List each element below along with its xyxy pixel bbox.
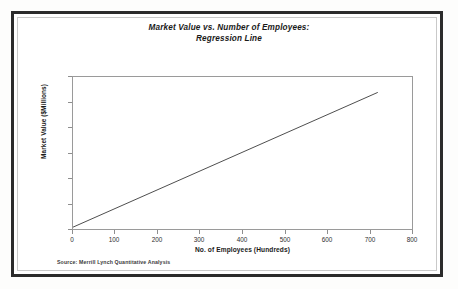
x-tick-mark	[114, 230, 115, 234]
chart-title: Market Value vs. Number of Employees: Re…	[0, 22, 458, 44]
x-tick-label: 200	[137, 236, 177, 244]
x-tick-mark	[327, 230, 328, 234]
x-tick-label: 100	[94, 236, 134, 244]
x-tick-mark	[72, 230, 73, 234]
x-tick-label: 600	[307, 236, 347, 244]
x-tick-mark	[242, 230, 243, 234]
x-tick-mark	[157, 230, 158, 234]
x-tick-label: 400	[222, 236, 262, 244]
regression-line-plot	[73, 77, 414, 231]
regression-line	[73, 92, 378, 227]
x-tick-label: 300	[179, 236, 219, 244]
x-axis-title: No. of Employees (Hundreds)	[72, 246, 413, 253]
source-note: Source: Merrill Lynch Quantitative Analy…	[57, 259, 170, 265]
chart-title-line-2: Regression Line	[0, 33, 458, 44]
x-tick-mark	[370, 230, 371, 234]
chart-title-line-1: Market Value vs. Number of Employees:	[0, 22, 458, 33]
chart-page: Market Value vs. Number of Employees: Re…	[0, 0, 458, 289]
x-tick-label: 800	[392, 236, 432, 244]
x-tick-mark	[412, 230, 413, 234]
plot-area	[72, 76, 413, 230]
x-tick-label: 0	[52, 236, 92, 244]
x-tick-label: 500	[265, 236, 305, 244]
x-tick-mark	[199, 230, 200, 234]
x-tick-mark	[285, 230, 286, 234]
x-tick-label: 700	[350, 236, 390, 244]
y-axis-title: Market Value ($Millions)	[40, 57, 47, 187]
